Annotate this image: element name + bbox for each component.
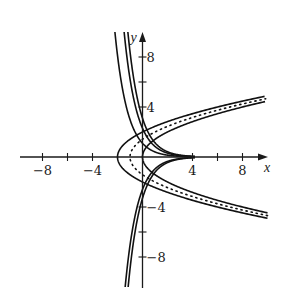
curve-layer: [115, 32, 268, 287]
y-tick-label: 8: [147, 50, 155, 65]
x-tick-label: 8: [238, 163, 246, 178]
x-tick-label: −4: [83, 163, 102, 178]
y-axis-label: y: [129, 30, 138, 45]
x-tick-label: 4: [188, 163, 196, 178]
x-axis-label: x: [263, 160, 271, 175]
y-axis-arrow-icon: [139, 32, 146, 42]
y-tick-label: −4: [147, 200, 166, 215]
exponential-curve: [124, 32, 195, 157]
exponential-curve: [125, 157, 195, 287]
exponential-curve: [128, 158, 195, 287]
graph-plot-area: −8−448 84−4−8 x y: [0, 0, 285, 298]
axes-layer: −8−448 84−4−8 x y: [20, 30, 271, 288]
x-tick-label: −8: [33, 163, 52, 178]
y-tick-label: 4: [147, 100, 155, 115]
y-tick-label: −8: [147, 250, 166, 265]
